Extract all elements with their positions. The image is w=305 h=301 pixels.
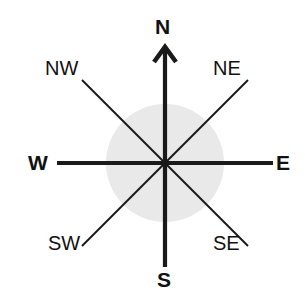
direction-label-southwest: SW [48,233,80,253]
direction-label-west: W [28,152,48,173]
direction-label-northeast: NE [213,58,241,78]
direction-label-northwest: NW [45,58,78,78]
compass-rose-figure: N NE E SE S SW W NW [0,0,305,301]
direction-label-southeast: SE [213,233,240,253]
direction-label-north: N [155,16,170,37]
direction-label-south: S [157,269,171,290]
direction-label-east: E [276,152,290,173]
